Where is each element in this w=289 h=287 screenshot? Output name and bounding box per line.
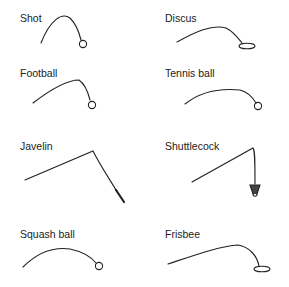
- tennis-ball-icon: [254, 102, 261, 109]
- squash-ball-icon: [95, 262, 102, 269]
- tennis-ball-trajectory: [185, 90, 262, 110]
- discus-icon: [239, 43, 255, 49]
- football-trajectory: [33, 80, 96, 109]
- frisbee-icon: [254, 266, 270, 272]
- shuttlecock-icon: [250, 185, 260, 196]
- discus-trajectory: [177, 27, 255, 49]
- javelin-trajectory: [25, 151, 124, 202]
- football-ball-icon: [88, 101, 95, 108]
- frisbee-trajectory: [168, 245, 270, 272]
- shuttlecock-trajectory: [192, 148, 260, 196]
- trajectory-diagram: [0, 0, 289, 287]
- shot-ball-icon: [79, 40, 86, 47]
- shot-trajectory: [41, 16, 87, 48]
- javelin-icon: [116, 190, 124, 202]
- squash-ball-trajectory: [23, 249, 103, 270]
